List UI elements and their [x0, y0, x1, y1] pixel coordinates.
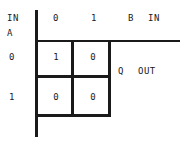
output-label-out: OUT — [138, 67, 156, 76]
table-cell: 1 — [38, 53, 74, 62]
grid-inner-vertical-divider — [71, 40, 74, 117]
truth-table-diagram: IN A 0 1 B IN Q OUT 0 1 1 0 0 0 — [0, 0, 180, 141]
row-axis-label-in: IN — [7, 14, 19, 23]
col-axis-label-in: IN — [148, 14, 160, 23]
grid-bottom-border — [35, 114, 111, 117]
row-header-0: 0 — [9, 53, 15, 62]
row-axis-label-a: A — [7, 29, 13, 38]
grid-inner-horizontal-divider — [35, 75, 111, 78]
col-axis-label-b: B — [128, 14, 134, 23]
output-label-q: Q — [118, 67, 124, 76]
grid-right-border — [108, 40, 111, 117]
axis-vertical-line — [35, 10, 38, 137]
table-cell: 0 — [75, 53, 111, 62]
table-cell: 0 — [75, 93, 111, 102]
column-header-1: 1 — [91, 14, 97, 23]
table-cell: 0 — [38, 93, 74, 102]
row-header-1: 1 — [9, 93, 15, 102]
column-header-0: 0 — [53, 14, 59, 23]
